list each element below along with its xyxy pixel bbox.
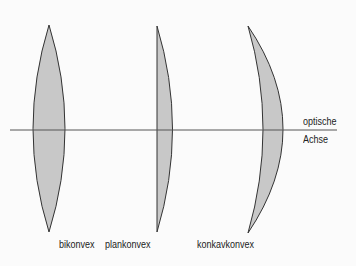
bikonvex-lens-shape	[33, 25, 65, 232]
label-konkavkonvex: konkavkonvex	[197, 239, 254, 250]
axis-label-optische: optische	[303, 116, 337, 127]
plankonvex-lens-shape	[157, 26, 173, 232]
label-bikonvex: bikonvex	[59, 239, 95, 250]
diagram-svg	[0, 0, 356, 266]
label-plankonvex: plankonvex	[105, 239, 151, 250]
lens-diagram: optische Achse bikonvex plankonvex konka…	[0, 0, 356, 266]
axis-label-achse: Achse	[303, 134, 328, 145]
